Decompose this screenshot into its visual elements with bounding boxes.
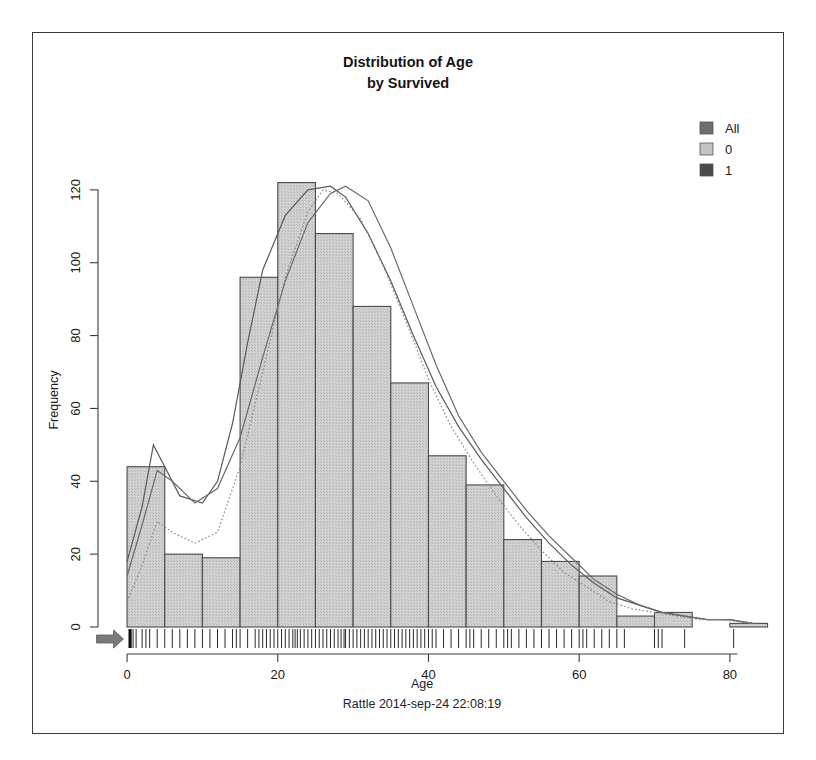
y-tick-label: 0 bbox=[68, 623, 83, 630]
x-tick-label: 20 bbox=[271, 667, 285, 682]
y-tick-label: 80 bbox=[68, 328, 83, 342]
chart-page: Distribution of Age by Survived 02040608… bbox=[0, 0, 816, 760]
x-tick-label: 80 bbox=[723, 667, 737, 682]
legend-label: 0 bbox=[725, 142, 732, 157]
x-axis-label: Age bbox=[411, 677, 433, 691]
histogram-bar bbox=[617, 616, 655, 627]
histogram-bar bbox=[127, 467, 165, 627]
legend-swatch bbox=[700, 164, 713, 176]
footer-timestamp: Rattle 2014-sep-24 22:08:19 bbox=[343, 697, 501, 711]
histogram-svg: Distribution of Age by Survived 02040608… bbox=[0, 0, 816, 760]
legend: All01 bbox=[700, 121, 740, 178]
y-tick-label: 20 bbox=[68, 547, 83, 561]
histogram-bar bbox=[428, 456, 466, 627]
histogram-bar bbox=[391, 383, 429, 627]
rug-plot bbox=[112, 628, 760, 650]
histogram-bar bbox=[278, 183, 316, 627]
histogram-bar bbox=[504, 540, 542, 627]
y-tick-label: 40 bbox=[68, 474, 83, 488]
histogram-bar bbox=[315, 234, 353, 627]
y-tick-label: 120 bbox=[68, 179, 83, 201]
y-tick-label: 60 bbox=[68, 401, 83, 415]
x-tick-label: 0 bbox=[123, 667, 130, 682]
legend-label: 1 bbox=[725, 163, 732, 178]
histogram-bar bbox=[466, 485, 504, 627]
histogram-bar bbox=[541, 561, 579, 627]
legend-label: All bbox=[725, 121, 740, 136]
histogram-bar bbox=[730, 623, 768, 627]
histogram-bar bbox=[202, 558, 240, 627]
y-axis-label: Frequency bbox=[47, 370, 61, 430]
histogram-bars bbox=[127, 183, 767, 627]
y-tick-label: 100 bbox=[68, 252, 83, 274]
histogram-bar bbox=[240, 277, 278, 627]
x-tick-label: 60 bbox=[572, 667, 586, 682]
y-axis: 020406080100120 bbox=[68, 179, 98, 631]
chart-title-line1: Distribution of Age bbox=[343, 54, 473, 70]
legend-swatch bbox=[700, 122, 713, 134]
chart-title-line2: by Survived bbox=[367, 75, 449, 91]
legend-swatch bbox=[700, 143, 713, 155]
histogram-bar bbox=[165, 554, 203, 627]
histogram-bar bbox=[353, 306, 391, 627]
